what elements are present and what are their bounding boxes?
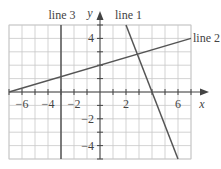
x-axis-arrow-icon xyxy=(200,89,209,96)
line-chart: −6 −4 −2 2 6 4 −2 −4 x y line 3 line 1 l… xyxy=(0,0,221,169)
x-tick-label: −2 xyxy=(68,97,81,111)
x-axis-label: x xyxy=(198,97,205,111)
y-tick-label: −4 xyxy=(81,139,94,153)
series-label-line-2: line 2 xyxy=(193,31,220,45)
x-tick-label: −4 xyxy=(42,97,55,111)
x-tick-label: −6 xyxy=(16,97,29,111)
x-tick-label: 2 xyxy=(123,97,129,111)
x-tick-label: 6 xyxy=(175,97,181,111)
y-axis-arrow-icon xyxy=(97,11,104,20)
y-tick-label: −2 xyxy=(81,112,94,126)
y-tick-label: 4 xyxy=(88,31,94,45)
series-label-line-3: line 3 xyxy=(49,8,76,22)
series-label-line-1: line 1 xyxy=(115,8,142,22)
y-axis-label: y xyxy=(86,6,93,20)
